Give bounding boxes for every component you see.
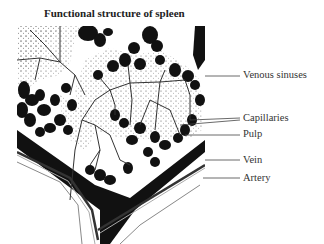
label-venous-sinuses: Venous sinuses [243,69,307,80]
label-artery: Artery [243,172,270,183]
label-pulp: Pulp [243,128,262,139]
label-capillaries: Capillaries [243,112,289,123]
label-vein: Vein [243,154,262,165]
